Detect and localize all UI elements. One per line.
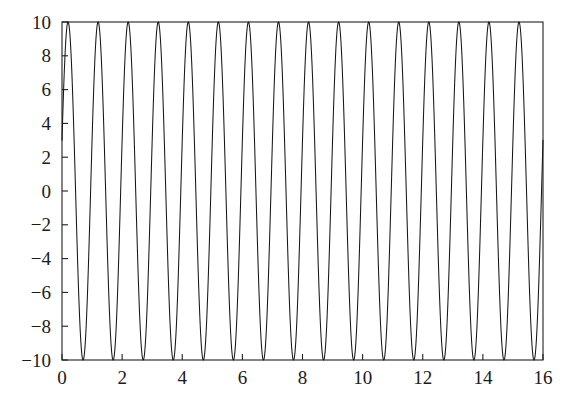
figure-container: −10−8−6−4−20246810 0246810121416 xyxy=(0,0,575,418)
y-axis-tick-label: 10 xyxy=(32,12,51,33)
x-axis-tick-label: 12 xyxy=(413,367,432,388)
x-axis-tick-label: 16 xyxy=(534,367,553,388)
x-axis-tick-label: 14 xyxy=(473,367,493,388)
axis-tick-marks xyxy=(62,22,543,360)
x-axis-tick-label: 0 xyxy=(57,367,67,388)
x-axis-tick-label: 6 xyxy=(238,367,248,388)
y-axis-tick-label: −4 xyxy=(31,248,52,269)
chart-canvas: −10−8−6−4−20246810 0246810121416 xyxy=(0,0,575,418)
x-axis-tick-label: 4 xyxy=(178,367,188,388)
axis-frame xyxy=(62,22,543,360)
y-axis-tick-label: 0 xyxy=(42,181,52,202)
y-axis-tick-label: 8 xyxy=(42,45,52,66)
y-axis-tick-label: 6 xyxy=(42,79,52,100)
x-axis-tick-label: 8 xyxy=(298,367,308,388)
x-axis-tick-label: 2 xyxy=(117,367,127,388)
y-axis-tick-label: 2 xyxy=(42,147,52,168)
y-axis-tick-label: −2 xyxy=(31,214,51,235)
y-axis-tick-label: −6 xyxy=(31,282,51,303)
y-axis-tick-label: 4 xyxy=(42,113,52,134)
y-axis-tick-label: −10 xyxy=(21,350,51,371)
x-axis-tick-label-group: 0246810121416 xyxy=(57,367,552,388)
y-axis-tick-label-group: −10−8−6−4−20246810 xyxy=(21,12,51,371)
y-axis-tick-label: −8 xyxy=(31,316,51,337)
data-series-oscillation xyxy=(62,22,543,360)
x-axis-tick-label: 10 xyxy=(353,367,372,388)
